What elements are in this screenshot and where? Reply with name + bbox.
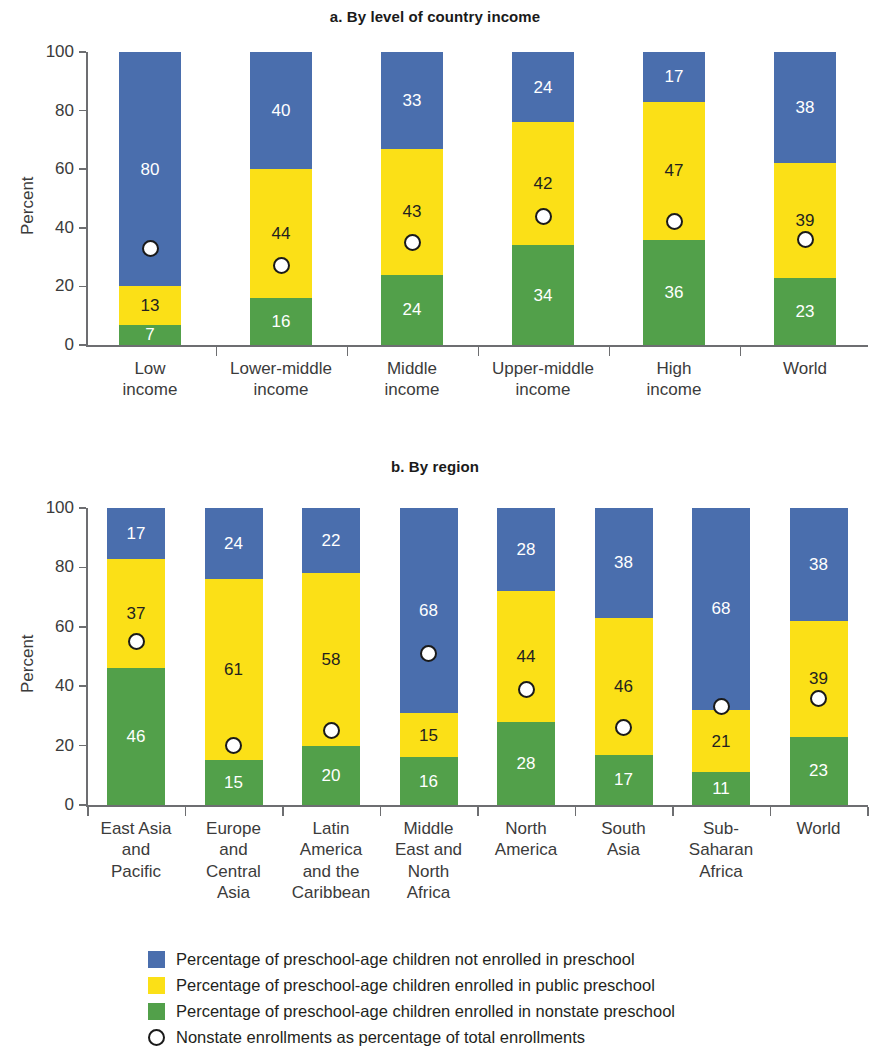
x-axis-category-label: Lower-middle income [216, 358, 347, 401]
bar-segment-value: 28 [517, 541, 536, 558]
bar-segment-public[interactable]: 44 [497, 591, 555, 722]
bar-segment-public[interactable]: 61 [205, 579, 263, 760]
bar-segment-nonstate[interactable]: 23 [774, 278, 836, 345]
y-axis-tick-label: 100 [46, 42, 74, 62]
x-axis-tick [282, 807, 284, 816]
stacked-bar[interactable]: 112168 [692, 508, 750, 805]
nonstate-share-marker[interactable] [273, 257, 290, 274]
stacked-bar[interactable]: 205822 [302, 508, 360, 805]
bar-segment-nonstate[interactable]: 20 [302, 746, 360, 805]
bar-segment-not-enrolled[interactable]: 38 [774, 52, 836, 163]
nonstate-share-marker[interactable] [810, 690, 827, 707]
bar-segment-not-enrolled[interactable]: 24 [205, 508, 263, 579]
stacked-bar[interactable]: 164440 [250, 52, 312, 345]
x-axis-tick [380, 807, 382, 816]
bar-segment-nonstate[interactable]: 16 [250, 298, 312, 345]
bar-segment-public[interactable]: 37 [107, 559, 165, 669]
bar-segment-public[interactable]: 43 [381, 149, 443, 275]
bar-segment-not-enrolled[interactable]: 38 [595, 508, 653, 618]
y-axis-tick [79, 745, 86, 747]
bar-segment-not-enrolled[interactable]: 24 [512, 52, 574, 122]
bar-segment-public[interactable]: 21 [692, 710, 750, 772]
bar-segment-nonstate[interactable]: 7 [119, 325, 181, 346]
bar-segment-nonstate[interactable]: 15 [205, 760, 263, 805]
nonstate-share-marker[interactable] [666, 213, 683, 230]
bar-segment-not-enrolled[interactable]: 17 [107, 508, 165, 558]
nonstate-share-marker[interactable] [713, 698, 730, 715]
bar-segment-not-enrolled[interactable]: 17 [643, 52, 705, 102]
y-axis-tick-label: 60 [55, 159, 74, 179]
bar-segment-nonstate[interactable]: 46 [107, 668, 165, 805]
bar-segment-not-enrolled[interactable]: 40 [250, 52, 312, 169]
stacked-bar[interactable]: 156124 [205, 508, 263, 805]
nonstate-share-marker[interactable] [420, 645, 437, 662]
y-axis-tick [79, 51, 86, 53]
legend-item-public-preschool: Percentage of preschool-age children enr… [148, 972, 848, 998]
y-axis-tick-label: 80 [55, 557, 74, 577]
stacked-bar[interactable]: 284428 [497, 508, 555, 805]
chart-legend: Percentage of preschool-age children not… [148, 946, 848, 1050]
bar-segment-nonstate[interactable]: 17 [595, 755, 653, 805]
legend-label-nonstate-share: Nonstate enrollments as percentage of to… [176, 1028, 585, 1047]
stacked-bar[interactable]: 174638 [595, 508, 653, 805]
bar-segment-value: 24 [403, 301, 422, 318]
bar-segment-value: 28 [517, 755, 536, 772]
y-axis-tick-label: 100 [46, 498, 74, 518]
bar-segment-nonstate[interactable]: 23 [790, 737, 848, 805]
stacked-bar[interactable]: 244333 [381, 52, 443, 345]
legend-item-not-enrolled: Percentage of preschool-age children not… [148, 946, 848, 972]
x-axis-tick [770, 807, 772, 816]
bar-segment-not-enrolled[interactable]: 33 [381, 52, 443, 149]
bar-segment-value: 34 [534, 287, 553, 304]
bar-segment-public[interactable]: 42 [512, 122, 574, 245]
nonstate-share-marker[interactable] [142, 240, 159, 257]
nonstate-share-marker[interactable] [518, 681, 535, 698]
bar-segment-not-enrolled[interactable]: 38 [790, 508, 848, 621]
bar-segment-nonstate[interactable]: 11 [692, 772, 750, 805]
x-axis-tick [347, 347, 349, 356]
bar-segment-nonstate[interactable]: 16 [400, 757, 458, 805]
nonstate-share-marker[interactable] [225, 737, 242, 754]
bar-segment-nonstate[interactable]: 36 [643, 240, 705, 345]
stacked-bar[interactable]: 233938 [774, 52, 836, 345]
stacked-bar[interactable]: 233938 [790, 508, 848, 805]
nonstate-share-marker[interactable] [535, 208, 552, 225]
bar-segment-nonstate[interactable]: 34 [512, 245, 574, 345]
stacked-bar[interactable]: 344224 [512, 52, 574, 345]
bar-segment-value: 38 [809, 556, 828, 573]
y-axis-tick [79, 804, 86, 806]
bar-segment-value: 13 [141, 297, 160, 314]
stacked-bar[interactable]: 364717 [643, 52, 705, 345]
legend-swatch-green-icon [148, 1003, 165, 1020]
bar-segment-value: 38 [796, 99, 815, 116]
bar-segment-not-enrolled[interactable]: 22 [302, 508, 360, 573]
bar-segment-public[interactable]: 15 [400, 713, 458, 758]
y-axis-tick [79, 227, 86, 229]
bar-segment-value: 40 [272, 102, 291, 119]
bar-segment-not-enrolled[interactable]: 28 [497, 508, 555, 591]
bar-segment-not-enrolled[interactable]: 68 [692, 508, 750, 710]
bar-segment-not-enrolled[interactable]: 68 [400, 508, 458, 713]
nonstate-share-marker[interactable] [797, 231, 814, 248]
legend-label-public-preschool: Percentage of preschool-age children enr… [176, 976, 655, 995]
nonstate-share-marker[interactable] [128, 633, 145, 650]
bar-segment-public[interactable]: 13 [119, 286, 181, 324]
bar-segment-nonstate[interactable]: 24 [381, 275, 443, 345]
bar-segment-value: 44 [517, 648, 536, 665]
nonstate-share-marker[interactable] [323, 722, 340, 739]
x-axis-category-label: World [770, 818, 868, 839]
bar-segment-public[interactable]: 44 [250, 169, 312, 298]
bar-segment-value: 16 [272, 313, 291, 330]
bar-segment-public[interactable]: 58 [302, 573, 360, 745]
x-axis-category-label: Sub- Saharan Africa [672, 818, 770, 882]
x-axis-tick [867, 807, 869, 816]
stacked-bar[interactable]: 463717 [107, 508, 165, 805]
bar-segment-value: 7 [145, 326, 154, 343]
bar-segment-public[interactable]: 39 [790, 621, 848, 737]
nonstate-share-marker[interactable] [404, 234, 421, 251]
bar-segment-nonstate[interactable]: 28 [497, 722, 555, 805]
bar-segment-value: 68 [712, 600, 731, 617]
bar-segment-value: 38 [614, 554, 633, 571]
stacked-bar[interactable]: 71380 [119, 52, 181, 345]
bar-segment-public[interactable]: 39 [774, 163, 836, 277]
